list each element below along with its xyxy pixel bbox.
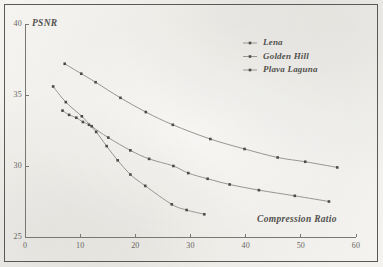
series-line-0 (65, 64, 338, 168)
data-point (145, 111, 148, 114)
data-point (172, 165, 175, 168)
data-point (185, 209, 188, 212)
x-tick-label: 30 (185, 241, 197, 250)
data-point (144, 185, 147, 188)
data-point (293, 195, 296, 198)
markers-group (52, 62, 339, 215)
data-point (61, 109, 64, 112)
data-point (105, 145, 108, 148)
data-point (129, 149, 132, 152)
data-point (88, 124, 91, 127)
data-point (328, 200, 331, 203)
data-point (52, 85, 55, 88)
x-tick-label: 20 (129, 241, 141, 250)
data-point (170, 203, 173, 206)
data-point (172, 124, 175, 127)
legend-label-lena: Lena (263, 37, 283, 47)
data-point (276, 156, 279, 159)
x-tick-label: 40 (240, 241, 252, 250)
data-point (243, 148, 246, 151)
data-point (203, 213, 206, 216)
data-point (228, 183, 231, 186)
x-tick-label: 60 (350, 241, 362, 250)
legend-label-plava-laguna: Plava Laguna (263, 64, 318, 74)
data-point (116, 159, 119, 162)
x-tick-label: 50 (295, 241, 307, 250)
y-tick-label: 30 (9, 161, 22, 170)
legend-label-golden-hill: Golden Hill (263, 51, 309, 61)
data-point (80, 72, 83, 75)
data-point (63, 62, 66, 65)
data-point (75, 116, 78, 119)
data-point (81, 115, 84, 118)
data-point (304, 160, 307, 163)
curves-group (53, 64, 337, 215)
psnr-compression-ratio-figure: 010203040506025303540 LenaGolden HillPla… (0, 0, 383, 267)
legend-marker-dot (249, 69, 252, 72)
legend-marker-dot (249, 55, 252, 58)
legend-marker-dot (249, 42, 252, 45)
y-tick-label: 35 (9, 90, 22, 99)
legend-marker-group (243, 42, 257, 72)
data-point (148, 158, 151, 161)
x-tick-label: 10 (74, 241, 86, 250)
data-point (258, 189, 261, 192)
data-point (187, 172, 190, 175)
data-point (90, 125, 93, 128)
series-line-1 (53, 86, 329, 201)
data-point (206, 177, 209, 180)
plot-canvas (0, 0, 383, 267)
x-tick-label: 0 (19, 241, 31, 250)
data-point (336, 166, 339, 169)
data-point (119, 97, 122, 100)
y-tick-label: 25 (9, 232, 22, 241)
data-point (68, 114, 71, 117)
data-point (95, 131, 98, 134)
series-line-2 (63, 111, 205, 215)
x-axis-title: Compression Ratio (257, 214, 337, 224)
data-point (209, 138, 212, 141)
y-tick-label: 40 (9, 19, 22, 28)
y-axis-title: PSNR (32, 18, 57, 28)
data-point (82, 121, 85, 124)
data-point (94, 81, 97, 84)
data-point (129, 173, 132, 176)
data-point (65, 101, 68, 104)
data-point (107, 136, 110, 139)
